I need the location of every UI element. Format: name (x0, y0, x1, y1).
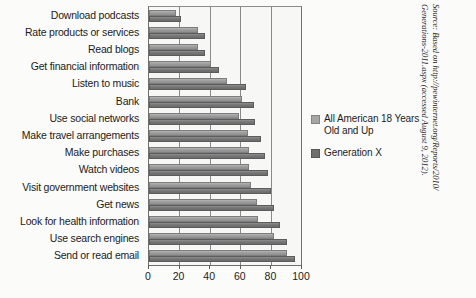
bar (149, 33, 205, 39)
x-tick-label: 20 (173, 270, 185, 282)
legend-label-line-2: Old and Up (324, 125, 419, 137)
legend-label: All American 18 YearsOld and Up (324, 113, 419, 136)
bar (149, 256, 295, 262)
x-tick-label: 0 (145, 270, 151, 282)
bar (149, 222, 280, 228)
bar-group (149, 76, 301, 93)
legend-swatch-icon (311, 149, 320, 158)
category-label: Download podcasts (0, 6, 144, 23)
category-label: Read blogs (0, 40, 144, 57)
bar (149, 188, 271, 194)
bar-series-container (149, 7, 301, 265)
x-tick-label: 100 (292, 270, 310, 282)
source-line-1: Source: Based on http://pewinternet.org/… (430, 4, 441, 294)
bar (149, 239, 287, 245)
legend-label: Generation X (324, 147, 382, 159)
bar-group (149, 213, 301, 230)
category-label: Make travel arrangements (0, 126, 144, 143)
bar-group (149, 24, 301, 41)
chart-figure: Download podcastsRate products or servic… (0, 0, 476, 298)
source-note: Source: Based on http://pewinternet.org/… (411, 4, 441, 294)
x-tick-mark (301, 265, 302, 269)
bar-group (149, 7, 301, 24)
bar-group (149, 162, 301, 179)
category-label: Listen to music (0, 75, 144, 92)
category-label: Bank (0, 92, 144, 109)
bar-group (149, 59, 301, 76)
bar (149, 16, 181, 22)
bar-group (149, 41, 301, 58)
x-axis: 020406080100 (148, 265, 301, 287)
legend-label-line-1: All American 18 Years (324, 113, 419, 125)
bar-group (149, 196, 301, 213)
bar (149, 50, 205, 56)
bar (149, 170, 268, 176)
category-label: Get news (0, 195, 144, 212)
category-label: Use social networks (0, 109, 144, 126)
x-tick-label: 80 (265, 270, 277, 282)
legend-swatch-icon (311, 115, 320, 124)
source-line-2: Generations-2011.aspx (accessed August 9… (419, 4, 430, 294)
x-tick-label: 40 (203, 270, 215, 282)
bar (149, 102, 254, 108)
bar (149, 84, 246, 90)
x-tick-mark (179, 265, 180, 269)
category-label: Make purchases (0, 144, 144, 161)
category-label: Get financial information (0, 58, 144, 75)
x-tick-mark (240, 265, 241, 269)
category-label: Look for health information (0, 212, 144, 229)
bar (149, 67, 219, 73)
bar-group (149, 127, 301, 144)
bar (149, 153, 265, 159)
bar-group (149, 110, 301, 127)
x-tick-mark (270, 265, 271, 269)
bar-group (149, 248, 301, 265)
bar-group (149, 231, 301, 248)
bar-group (149, 145, 301, 162)
category-label: Use search engines (0, 230, 144, 247)
bar (149, 136, 261, 142)
x-tick-label: 60 (234, 270, 246, 282)
category-axis-labels: Download podcastsRate products or servic… (0, 6, 144, 264)
category-label: Send or read email (0, 247, 144, 264)
category-label: Watch videos (0, 161, 144, 178)
bar-group (149, 179, 301, 196)
plot-area (148, 6, 302, 266)
x-tick-mark (209, 265, 210, 269)
legend-label-line-1: Generation X (324, 147, 382, 159)
bar (149, 205, 274, 211)
category-label: Rate products or services (0, 23, 144, 40)
bar-group (149, 93, 301, 110)
bar (149, 119, 255, 125)
category-label: Visit government websites (0, 178, 144, 195)
x-tick-mark (148, 265, 149, 269)
